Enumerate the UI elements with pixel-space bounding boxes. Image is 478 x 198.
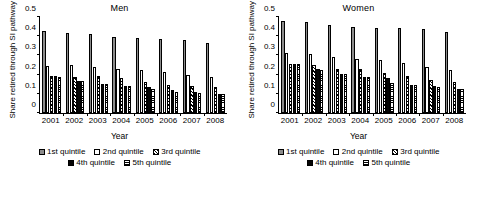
x-axis-tick-label: 2005 [133, 116, 157, 125]
legend-row: 4th quintile5th quintile [68, 158, 171, 167]
bar [218, 94, 221, 113]
x-axis-tick-labels-women: 20012002200320042005200620072008 [278, 116, 466, 125]
legend-item[interactable]: 3rd quintile [392, 147, 440, 156]
bar [363, 77, 366, 113]
legend-label: 4th quintile [315, 158, 354, 167]
bar [422, 29, 425, 113]
bar [54, 76, 57, 113]
y-axis-tick-label: 0.2 [264, 63, 279, 71]
legend-item[interactable]: 1st quintile [278, 147, 325, 156]
bar [445, 32, 448, 113]
legend-swatch-icon [39, 149, 45, 155]
x-axis-tick-label: 2002 [302, 116, 326, 125]
bar [214, 87, 217, 113]
bar [359, 69, 362, 113]
bar-group [204, 17, 227, 113]
y-axis-tick-label: 0.2 [25, 63, 40, 71]
legend-row: 1st quintile2nd quintile3rd quintile [278, 147, 440, 156]
legend-item[interactable]: 4th quintile [68, 158, 115, 167]
bar-groups-women [279, 17, 466, 113]
legend-swatch-icon [278, 149, 284, 155]
bar [320, 70, 323, 113]
x-axis-label-women: Year [239, 131, 478, 141]
bar-group [180, 17, 203, 113]
bar [66, 33, 69, 113]
legend-label: 2nd quintile [342, 147, 383, 156]
legend-label: 1st quintile [286, 147, 324, 156]
legend-item[interactable]: 2nd quintile [333, 147, 382, 156]
x-axis-tick-label: 2007 [180, 116, 204, 125]
bar-group [134, 17, 157, 113]
bar [210, 77, 213, 113]
bar [140, 70, 143, 113]
bar-group [302, 17, 325, 113]
bar [406, 76, 409, 113]
legend-item[interactable]: 3rd quintile [153, 147, 201, 156]
bar [312, 65, 315, 113]
bar [73, 77, 76, 113]
bar [124, 86, 127, 113]
bar [285, 53, 288, 113]
legend-label: 5th quintile [133, 158, 172, 167]
bar [429, 80, 432, 113]
y-axis-tick-label: 0.1 [264, 82, 279, 90]
x-axis-tick-label: 2008 [443, 116, 467, 125]
bar [367, 77, 370, 113]
bar-groups-men [40, 17, 227, 113]
y-axis-tick-label: 0.4 [264, 24, 279, 32]
x-axis-tick-label: 2008 [204, 116, 228, 125]
bar [316, 69, 319, 113]
bar [281, 21, 284, 113]
bar-group [110, 17, 133, 113]
x-axis-tick-label: 2004 [110, 116, 134, 125]
legend-item[interactable]: 1st quintile [39, 147, 86, 156]
bar [183, 40, 186, 113]
bar [402, 63, 405, 113]
bar [112, 37, 115, 113]
x-axis-tick-label: 2001 [278, 116, 302, 125]
bar [128, 86, 131, 113]
y-axis-tick-label: 0.3 [25, 43, 40, 51]
legend-swatch-icon [392, 149, 398, 155]
x-axis-tick-label: 2007 [419, 116, 443, 125]
bar-group [279, 17, 302, 113]
bar-group [396, 17, 419, 113]
legend-swatch-icon [333, 149, 339, 155]
bar [151, 89, 154, 113]
legend-swatch-icon [94, 149, 100, 155]
bar-group [40, 17, 63, 113]
y-axis-tick-label: 0.5 [264, 5, 279, 13]
legend-swatch-icon [153, 149, 159, 155]
bar-group [443, 17, 466, 113]
plot-area-men: 00.10.20.30.40.5 [39, 17, 227, 114]
bar [309, 54, 312, 113]
legend-item[interactable]: 4th quintile [307, 158, 354, 167]
bar [383, 73, 386, 114]
y-axis-label-men: Share retired through SI pathway [8, 11, 17, 119]
legend-item[interactable]: 5th quintile [363, 158, 410, 167]
bar [351, 27, 354, 113]
bar [101, 84, 104, 113]
bar [175, 92, 178, 114]
x-axis-tick-label: 2006 [396, 116, 420, 125]
y-axis-tick-label: 0.5 [25, 5, 40, 13]
bar [70, 65, 73, 113]
bar [46, 66, 49, 113]
legend-swatch-icon [68, 160, 74, 166]
bar [198, 93, 201, 113]
chart-panel-women: Women Share retired through SI pathway 0… [239, 0, 478, 198]
bar [159, 39, 162, 113]
x-axis-tick-label: 2002 [63, 116, 87, 125]
bar [136, 38, 139, 113]
bar [375, 28, 378, 113]
bar [147, 87, 150, 113]
legend-label: 3rd quintile [161, 147, 200, 156]
legend-item[interactable]: 2nd quintile [94, 147, 143, 156]
x-axis-tick-label: 2005 [372, 116, 396, 125]
bar [410, 85, 413, 113]
bar [449, 70, 452, 113]
bar-group [87, 17, 110, 113]
legend-label: 5th quintile [372, 158, 411, 167]
legend-item[interactable]: 5th quintile [124, 158, 171, 167]
bar [297, 64, 300, 113]
